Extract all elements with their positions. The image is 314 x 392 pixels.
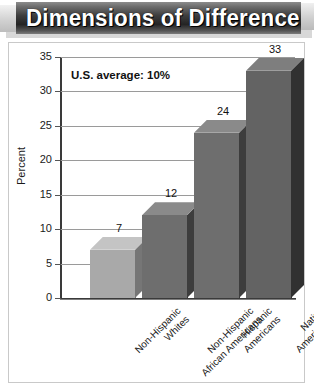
title-banner: Dimensions of Difference — [0, 2, 314, 35]
banner-title-text: Dimensions of Difference — [26, 2, 291, 34]
chart-frame — [8, 42, 305, 383]
